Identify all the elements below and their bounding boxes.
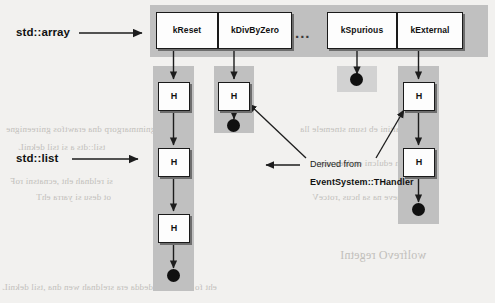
handler-node-label: H bbox=[416, 158, 423, 167]
array-slot-kSpurious[interactable]: kSpurious bbox=[327, 12, 397, 49]
background-bleed-text: tsil::dts a si tsil dekniL bbox=[18, 142, 105, 152]
array-slot-kExternal[interactable]: kExternal bbox=[397, 12, 463, 49]
handler-node-label: H bbox=[231, 92, 238, 101]
list-terminator-dot bbox=[350, 73, 363, 86]
array-slot-label: kDivByZero bbox=[231, 26, 279, 35]
legend-base-class: EventSystem::THandler bbox=[310, 177, 414, 187]
diagram-canvas: gnimmargorp dna erawtfos gnireenigne tsi… bbox=[0, 0, 495, 303]
handler-node[interactable]: H bbox=[218, 82, 250, 111]
handler-node-label: H bbox=[171, 224, 178, 233]
handler-node[interactable]: H bbox=[158, 214, 190, 243]
array-slot-kReset[interactable]: kReset bbox=[156, 12, 218, 49]
handler-node[interactable]: H bbox=[403, 82, 435, 111]
legend-derived-from: Derived from bbox=[310, 159, 362, 169]
array-slot-label: kReset bbox=[173, 26, 201, 35]
list-label: std::list bbox=[16, 152, 58, 164]
list-terminator-dot bbox=[167, 269, 180, 282]
legend-leader-left bbox=[249, 104, 306, 158]
array-slot-label: kSpurious bbox=[341, 26, 383, 35]
list-terminator-dot bbox=[412, 203, 425, 216]
handler-node-label: H bbox=[171, 92, 178, 101]
handler-node[interactable]: H bbox=[403, 148, 435, 177]
list-terminator-dot bbox=[227, 119, 240, 132]
background-bleed-text: ot desu si yarra ehT bbox=[36, 192, 111, 202]
handler-node-label: H bbox=[171, 158, 178, 167]
handler-node[interactable]: H bbox=[158, 148, 190, 177]
array-ellipsis: ... bbox=[295, 25, 311, 40]
handler-node-label: H bbox=[416, 92, 423, 101]
handler-node[interactable]: H bbox=[158, 82, 190, 111]
background-bleed-text: wolfrevO regetnI bbox=[340, 248, 426, 263]
array-label: std::array bbox=[16, 26, 70, 38]
background-bleed-text: si reldnah eht ,ecnatsni roF bbox=[10, 176, 113, 186]
background-bleed-text: tneve na sa hcus ,rotceV bbox=[312, 192, 405, 202]
array-slot-label: kExternal bbox=[410, 26, 449, 35]
array-slot-kDivByZero[interactable]: kDivByZero bbox=[218, 12, 292, 49]
background-bleed-text: gnimmargorp dna erawtfos gnireenigne bbox=[6, 124, 155, 134]
